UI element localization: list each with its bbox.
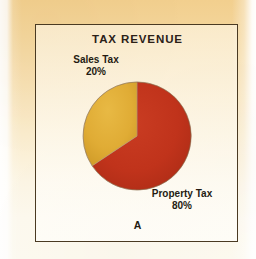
scanned-figure-page: TAX REVENUE: [0, 0, 256, 259]
pie-label-property-tax-value: 80%: [132, 200, 232, 212]
pie-label-sales-tax: Sales Tax 20%: [50, 54, 142, 78]
pie-label-property-tax-name: Property Tax: [132, 188, 232, 200]
pie-label-sales-tax-name: Sales Tax: [50, 54, 142, 66]
panel-letter: A: [36, 219, 239, 231]
pie-chart-svg: [81, 80, 193, 192]
figure-frame: TAX REVENUE: [35, 24, 238, 242]
pie-label-sales-tax-value: 20%: [50, 66, 142, 78]
pie-label-property-tax: Property Tax 80%: [132, 188, 232, 212]
